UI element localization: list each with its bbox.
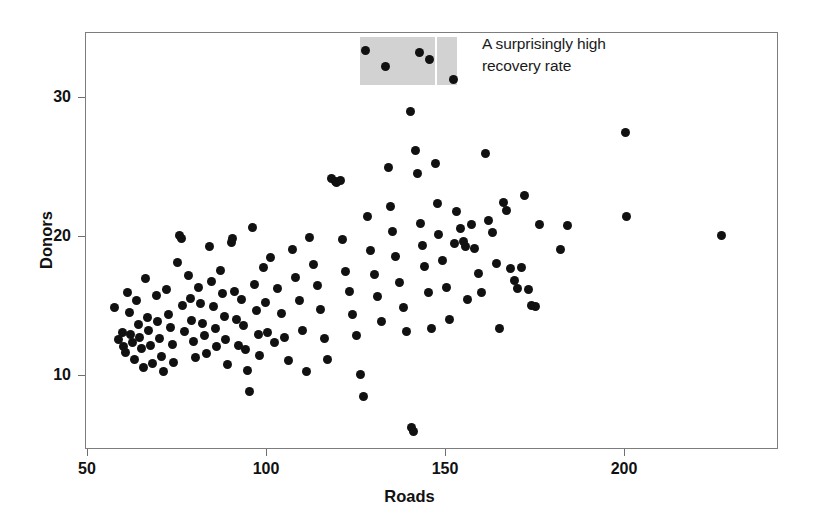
data-point [189, 337, 198, 346]
data-point [461, 242, 470, 251]
data-point [284, 356, 293, 365]
data-point [237, 295, 246, 304]
data-point [313, 281, 322, 290]
y-tick-label: 30 [33, 88, 71, 106]
data-point [467, 220, 476, 229]
data-point [155, 334, 164, 343]
x-tick-label: 200 [611, 460, 638, 478]
data-point [164, 310, 173, 319]
y-axis-label: Donors [37, 211, 56, 269]
data-point [370, 270, 379, 279]
data-point [399, 303, 408, 312]
data-point [502, 206, 511, 215]
data-point [148, 359, 157, 368]
x-tick-mark [624, 449, 625, 456]
data-point [223, 360, 232, 369]
data-point [169, 358, 178, 367]
data-point [259, 263, 268, 272]
data-point [402, 327, 411, 336]
data-point [492, 259, 501, 268]
data-point [442, 283, 451, 292]
data-point [198, 319, 207, 328]
data-point [135, 333, 144, 342]
data-point [125, 308, 134, 317]
data-point [717, 231, 726, 240]
data-point [157, 352, 166, 361]
data-point [144, 326, 153, 335]
data-point [377, 317, 386, 326]
x-tick-mark [266, 449, 267, 456]
data-point [137, 344, 146, 353]
data-point [470, 244, 479, 253]
data-point [280, 333, 289, 342]
data-point [474, 269, 483, 278]
data-point [241, 345, 250, 354]
data-points-layer [86, 33, 777, 448]
data-point [427, 324, 436, 333]
data-point [434, 230, 443, 239]
data-point [352, 331, 361, 340]
data-point [622, 212, 631, 221]
data-point [187, 316, 196, 325]
data-point [220, 312, 229, 321]
data-point [356, 370, 365, 379]
data-point [381, 62, 390, 71]
x-tick-mark [87, 449, 88, 456]
data-point [191, 353, 200, 362]
data-point [143, 313, 152, 322]
data-point [373, 292, 382, 301]
data-point [338, 235, 347, 244]
data-point [118, 328, 127, 337]
data-point [359, 392, 368, 401]
x-tick-label: 50 [78, 460, 96, 478]
data-point [239, 321, 248, 330]
data-point [178, 301, 187, 310]
data-point [261, 298, 270, 307]
data-point [139, 363, 148, 372]
data-point [273, 284, 282, 293]
data-point [288, 245, 297, 254]
data-point [488, 228, 497, 237]
data-point [212, 342, 221, 351]
data-point [411, 146, 420, 155]
data-point [123, 288, 132, 297]
x-axis-label: Roads [0, 487, 819, 506]
data-point [456, 224, 465, 233]
x-tick-label: 100 [253, 460, 280, 478]
data-point [134, 320, 143, 329]
data-point [395, 278, 404, 287]
data-point [211, 324, 220, 333]
data-point [205, 242, 214, 251]
y-tick-mark [78, 97, 85, 98]
data-point [621, 128, 630, 137]
data-point [305, 233, 314, 242]
data-point [291, 273, 300, 282]
data-point [418, 241, 427, 250]
data-point [361, 46, 370, 55]
data-point [177, 234, 186, 243]
data-point [336, 176, 345, 185]
plot-area [85, 32, 778, 449]
data-point [366, 246, 375, 255]
data-point [186, 294, 195, 303]
data-point [250, 280, 259, 289]
data-point [152, 291, 161, 300]
data-point [556, 245, 565, 254]
data-point [153, 317, 162, 326]
data-point [207, 277, 216, 286]
data-point [438, 256, 447, 265]
y-tick-mark [78, 375, 85, 376]
data-point [450, 239, 459, 248]
data-point [384, 163, 393, 172]
data-point [391, 252, 400, 261]
data-point [495, 324, 504, 333]
data-point [218, 289, 227, 298]
data-point [481, 149, 490, 158]
data-point [406, 107, 415, 116]
data-point [513, 284, 522, 293]
data-point [445, 315, 454, 324]
data-point [110, 303, 119, 312]
data-point [302, 367, 311, 376]
data-point [254, 330, 263, 339]
data-point [295, 296, 304, 305]
